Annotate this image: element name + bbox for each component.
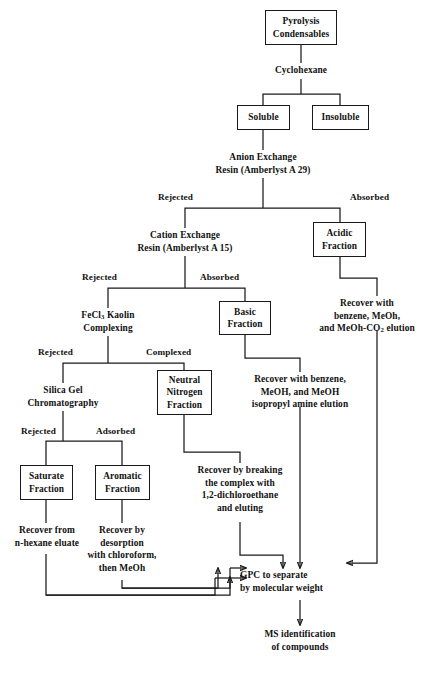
edge-label-fecl3-complexed: Complexed bbox=[146, 348, 191, 357]
edge-label-cation-absorbed: Absorbed bbox=[200, 273, 239, 282]
node-line: Saturate bbox=[29, 470, 64, 482]
node-line: Recover by bbox=[66, 524, 178, 537]
node-line: Acidic bbox=[326, 227, 352, 239]
node-line: and MeOh-CO2 elution bbox=[292, 322, 442, 335]
node-line: Recover by breaking bbox=[176, 464, 304, 477]
node-line: Anion Exchange bbox=[183, 151, 343, 164]
node-pyrolysis-condensables: Pyrolysis Condensables bbox=[265, 10, 337, 45]
node-line: Basic bbox=[234, 306, 256, 318]
edge-label-silica-adsorbed: Adsorbed bbox=[96, 427, 135, 436]
node-ms-identification: MS identification of compounds bbox=[235, 628, 365, 653]
edge-label-anion-rejected: Rejected bbox=[158, 193, 193, 202]
node-line: the complex with bbox=[176, 477, 304, 490]
node-saturate-fraction: Saturate Fraction bbox=[20, 465, 73, 500]
node-silica-gel-chromatography: Silica Gel Chromatography bbox=[3, 384, 123, 409]
node-line: Pyrolysis bbox=[282, 15, 319, 27]
node-line: Fraction bbox=[322, 240, 357, 252]
node-acidic-fraction: Acidic Fraction bbox=[313, 222, 366, 257]
node-anion-exchange-resin: Anion Exchange Resin (Amberlyst A 29) bbox=[183, 151, 343, 176]
node-recover-aromatic-fraction: Recover by desorption with chloroform, t… bbox=[66, 524, 178, 575]
node-recover-neutral-nitrogen: Recover by breaking the complex with 1,2… bbox=[176, 464, 304, 515]
node-recover-acidic-fraction: Recover with benzene, MeOh, and MeOh-CO2… bbox=[292, 297, 442, 335]
node-aromatic-fraction: Aromatic Fraction bbox=[95, 465, 150, 500]
node-line: with chloroform, bbox=[66, 549, 178, 562]
node-line: Cation Exchange bbox=[105, 229, 265, 242]
node-insoluble: Insoluble bbox=[312, 105, 369, 130]
edge-label-cation-rejected: Rejected bbox=[82, 273, 117, 282]
node-soluble: Soluble bbox=[237, 105, 290, 130]
node-line: of compounds bbox=[235, 641, 365, 654]
node-line: Fraction bbox=[29, 483, 64, 495]
node-line: MS identification bbox=[235, 628, 365, 641]
node-line: benzene, MeOh, bbox=[292, 310, 442, 323]
node-basic-fraction: Basic Fraction bbox=[219, 301, 271, 335]
node-line: Insoluble bbox=[322, 111, 360, 123]
node-line: desorption bbox=[66, 537, 178, 550]
node-line: Chromatography bbox=[3, 397, 123, 410]
edge-label-fecl3-rejected: Rejected bbox=[38, 348, 73, 357]
connector-lines bbox=[0, 0, 442, 677]
node-line: Condensables bbox=[273, 28, 329, 40]
node-line: GPC to separate bbox=[240, 569, 360, 582]
node-line: Silica Gel bbox=[3, 384, 123, 397]
node-line: Nitrogen bbox=[166, 386, 202, 398]
node-line: Cyclohexane bbox=[251, 64, 351, 77]
node-neutral-nitrogen-fraction: Neutral Nitrogen Fraction bbox=[157, 370, 212, 415]
node-line: 1,2-dichloroethane bbox=[176, 489, 304, 502]
node-line: by molecular weight bbox=[240, 582, 360, 595]
node-line: Fraction bbox=[227, 318, 262, 330]
node-line: Recover with bbox=[292, 297, 442, 310]
node-line: Complexing bbox=[48, 322, 168, 335]
node-line: Resin (Amberlyst A 15) bbox=[105, 242, 265, 255]
node-cyclohexane: Cyclohexane bbox=[251, 64, 351, 77]
node-line: Recover with benzene, bbox=[226, 373, 374, 386]
node-recover-basic-fraction: Recover with benzene, MeOH, and MeOH iso… bbox=[226, 373, 374, 411]
node-gpc-separation: GPC to separate by molecular weight bbox=[240, 569, 360, 594]
edge-label-anion-absorbed: Absorbed bbox=[350, 193, 389, 202]
node-line: Fraction bbox=[105, 483, 140, 495]
node-line: then MeOh bbox=[66, 562, 178, 575]
flowchart-diagram: Pyrolysis Condensables Soluble Insoluble… bbox=[0, 0, 442, 677]
node-line: FeCl3 Kaolin bbox=[48, 309, 168, 322]
node-line: isopropyl amine elution bbox=[226, 398, 374, 411]
edge-label-silica-rejected: Rejected bbox=[21, 427, 56, 436]
node-line: and eluting bbox=[176, 502, 304, 515]
node-cation-exchange-resin: Cation Exchange Resin (Amberlyst A 15) bbox=[105, 229, 265, 254]
node-line: Neutral bbox=[169, 374, 200, 386]
node-line: Resin (Amberlyst A 29) bbox=[183, 164, 343, 177]
node-line: MeOH, and MeOH bbox=[226, 386, 374, 399]
node-line: Fraction bbox=[167, 399, 202, 411]
node-fecl3-kaolin-complexing: FeCl3 Kaolin Complexing bbox=[48, 309, 168, 334]
node-line: Soluble bbox=[248, 111, 278, 123]
node-line: Aromatic bbox=[103, 470, 142, 482]
